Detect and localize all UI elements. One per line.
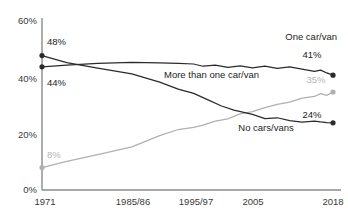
y-tick-label-20: 20% bbox=[18, 129, 38, 140]
series-annotation-one-car-van: One car/van bbox=[285, 31, 337, 42]
x-tick-label-1985-86: 1985/86 bbox=[116, 196, 150, 207]
series-annotation-no-cars-vans: No cars/vans bbox=[238, 122, 294, 133]
series-annotation-more-than-one-car-van: More than one car/van bbox=[164, 69, 259, 80]
start-marker-no-cars-vans bbox=[39, 53, 44, 58]
chart-canvas: 60% 40% 20% 0% 1971 1985/86 1995/97 2005… bbox=[0, 0, 348, 217]
start-value-one-car-van: 44% bbox=[47, 77, 67, 88]
line-chart: 60% 40% 20% 0% 1971 1985/86 1995/97 2005… bbox=[0, 0, 348, 217]
x-tick-label-2005: 2005 bbox=[242, 196, 263, 207]
x-tick-label-2018: 2018 bbox=[322, 196, 343, 207]
start-value-no-cars-vans: 48% bbox=[47, 36, 67, 47]
series-line-no-cars-vans bbox=[42, 56, 333, 123]
start-marker-more-than-one-car-van bbox=[39, 165, 44, 170]
end-marker-more-than-one-car-van bbox=[330, 89, 335, 94]
y-tick-label-0: 0% bbox=[23, 184, 37, 195]
x-tick-label-1995-97: 1995/97 bbox=[179, 196, 213, 207]
end-marker-one-car-van bbox=[330, 73, 335, 78]
x-tick-label-1971: 1971 bbox=[34, 196, 55, 207]
y-tick-label-60: 60% bbox=[18, 15, 38, 26]
start-value-more-than-one-car-van: 8% bbox=[47, 149, 61, 160]
start-marker-one-car-van bbox=[39, 64, 44, 69]
end-marker-no-cars-vans bbox=[330, 120, 335, 125]
end-value-no-cars-vans: 24% bbox=[302, 109, 322, 120]
y-tick-label-40: 40% bbox=[18, 73, 38, 84]
end-value-one-car-van: 41% bbox=[302, 49, 322, 60]
end-value-more-than-one-car-van: 35% bbox=[306, 74, 326, 85]
